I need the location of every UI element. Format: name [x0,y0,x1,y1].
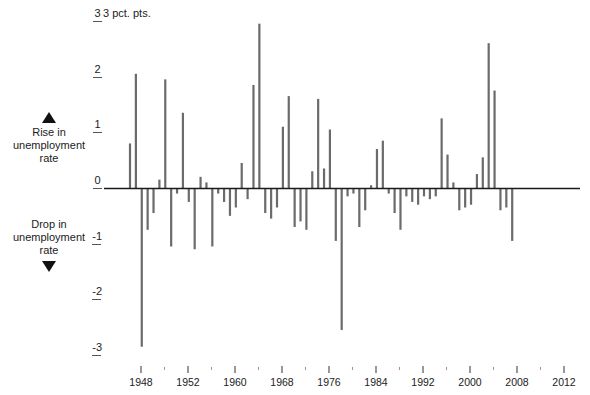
bar-1950 [141,188,143,347]
bar-1958 [188,188,190,202]
bar-1978 [305,188,307,230]
bar-1964 [223,188,225,202]
bar-1993 [394,188,396,213]
x-tick-label-2000: 2000 [448,376,492,388]
bar-1953 [158,180,160,188]
bar-1948 [129,143,131,188]
bar-1952 [152,188,154,213]
bar-1975 [288,96,290,188]
bar-2009 [488,43,490,188]
x-tick-label-1984: 1984 [354,376,398,388]
bar-1994 [399,188,401,230]
bar-1954 [164,79,166,188]
bar-1974 [282,127,284,188]
bar-1973 [276,188,278,208]
x-tick-label-1976: 1976 [307,376,351,388]
bar-1999 [429,188,431,199]
bar-2003 [452,182,454,188]
bar-series [129,24,513,347]
bar-1976 [294,188,296,227]
bar-2002 [446,155,448,188]
bar-1990 [376,149,378,188]
bar-1996 [411,188,413,202]
bar-1960 [199,177,201,188]
bar-1997 [417,188,419,205]
bar-1969 [252,85,254,188]
bar-1979 [311,171,313,188]
bar-2010 [493,91,495,188]
x-tick-label-1952: 1952 [166,376,210,388]
bar-2007 [476,174,478,188]
bar-2001 [441,118,443,188]
bar-1971 [264,188,266,213]
bar-1968 [247,188,249,199]
bar-2005 [464,188,466,208]
bar-2011 [499,188,501,210]
bar-1961 [205,182,207,188]
x-tick-label-2012: 2012 [542,376,586,388]
bar-1991 [382,141,384,188]
x-tick-label-2008: 2008 [495,376,539,388]
bar-1977 [299,188,301,221]
bar-1949 [135,74,137,188]
x-tick-label-1968: 1968 [260,376,304,388]
bar-1966 [235,188,237,208]
x-tick-label-1992: 1992 [401,376,445,388]
bar-1962 [211,188,213,246]
bar-2004 [458,188,460,210]
bar-1980 [317,99,319,188]
bar-1984 [341,188,343,330]
bar-1972 [270,188,272,219]
x-tick-label-1948: 1948 [119,376,163,388]
bar-1987 [358,188,360,227]
bar-1955 [170,188,172,246]
bar-1982 [329,130,331,188]
plot-area [0,0,590,395]
bar-2006 [470,188,472,205]
x-tick-label-1960: 1960 [213,376,257,388]
bar-1970 [258,24,260,188]
bar-1989 [370,185,372,188]
bar-1967 [241,163,243,188]
bar-1983 [335,188,337,241]
unemployment-change-chart: Rise in unemployment rate Drop in unempl… [0,0,590,395]
bar-1988 [364,188,366,210]
bar-2008 [482,157,484,188]
bar-1965 [229,188,231,216]
bar-1957 [182,113,184,188]
bar-1951 [147,188,149,230]
bar-1959 [194,188,196,249]
bar-2013 [511,188,513,241]
bar-1981 [323,169,325,189]
bar-2012 [505,188,507,208]
